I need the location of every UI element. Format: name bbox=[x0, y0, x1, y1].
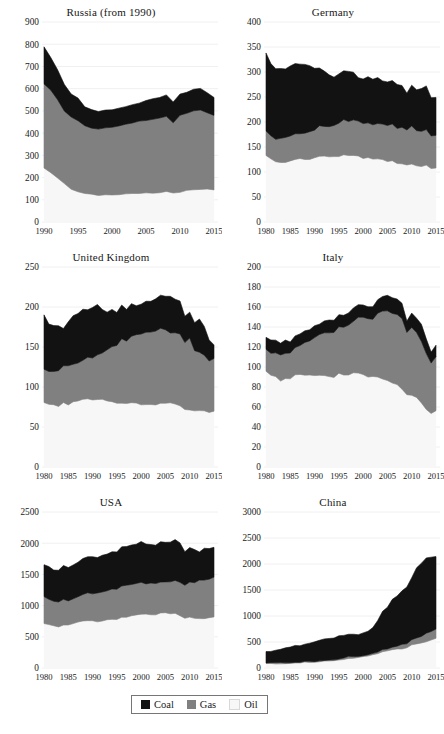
x-axis-tick-label: 1995 bbox=[108, 672, 125, 682]
chart-panel-usa: USA0500100015002000250019801985199019952… bbox=[0, 490, 222, 690]
y-axis-tick-label: 300 bbox=[247, 67, 261, 77]
x-axis-tick-label: 2005 bbox=[379, 672, 396, 682]
x-axis-tick-label: 1980 bbox=[35, 471, 52, 481]
x-axis-tick-label: 2015 bbox=[427, 672, 444, 682]
chart-panel-italy: Italy02040608010012014016018020019801985… bbox=[222, 245, 444, 490]
y-axis-tick-label: 500 bbox=[25, 632, 39, 642]
y-axis-tick-label: 3000 bbox=[242, 507, 261, 517]
legend-item-gas: Gas bbox=[187, 699, 216, 710]
x-axis-tick-label: 1980 bbox=[35, 672, 52, 682]
legend-label-gas: Gas bbox=[200, 699, 216, 710]
legend-item-oil: Oil bbox=[229, 699, 257, 710]
x-axis-tick-label: 1995 bbox=[69, 226, 86, 236]
y-axis-tick-label: 1500 bbox=[20, 570, 39, 580]
plot-area: 0204060801001201401601802001980198519901… bbox=[222, 245, 444, 490]
x-axis-tick-label: 1985 bbox=[282, 226, 299, 236]
plot-area: 0501001502002501980198519901995200020052… bbox=[0, 245, 222, 490]
y-axis-tick-label: 120 bbox=[247, 342, 261, 352]
y-axis-tick-label: 40 bbox=[252, 422, 262, 432]
x-axis-tick-label: 1985 bbox=[282, 471, 299, 481]
x-axis-tick-label: 2010 bbox=[181, 471, 198, 481]
y-axis-tick-label: 2000 bbox=[20, 539, 39, 549]
y-axis-tick-label: 1500 bbox=[242, 585, 261, 595]
y-axis-tick-label: 350 bbox=[247, 42, 261, 52]
y-axis-tick-label: 60 bbox=[252, 402, 262, 412]
x-axis-tick-label: 2010 bbox=[171, 226, 188, 236]
y-axis-tick-label: 200 bbox=[247, 262, 261, 272]
x-axis-tick-label: 1990 bbox=[35, 226, 52, 236]
y-axis-tick-label: 200 bbox=[25, 302, 39, 312]
y-axis-tick-label: 100 bbox=[247, 362, 261, 372]
x-axis-tick-label: 1985 bbox=[60, 672, 77, 682]
y-axis-tick-label: 2500 bbox=[242, 533, 261, 543]
panel-grid: Russia (from 1990)0100200300400500600700… bbox=[0, 0, 444, 690]
plot-area: 0500100015002000250030001980198519901995… bbox=[222, 490, 444, 690]
x-axis-tick-label: 1990 bbox=[84, 672, 101, 682]
plot-area: 0500100015002000250019801985199019952000… bbox=[0, 490, 222, 690]
y-axis-tick-label: 160 bbox=[247, 302, 261, 312]
plot-area: 0100200300400500600700800900199019952000… bbox=[0, 0, 222, 245]
y-axis-tick-label: 100 bbox=[25, 382, 39, 392]
x-axis-tick-label: 2010 bbox=[403, 226, 420, 236]
x-axis-tick-label: 1980 bbox=[257, 471, 274, 481]
y-axis-tick-label: 2500 bbox=[20, 507, 39, 517]
x-axis-tick-label: 2000 bbox=[133, 672, 150, 682]
y-axis-tick-label: 400 bbox=[247, 17, 261, 27]
x-axis-tick-label: 2015 bbox=[427, 471, 444, 481]
x-axis-tick-label: 2005 bbox=[157, 672, 174, 682]
y-axis-tick-label: 180 bbox=[247, 282, 261, 292]
y-axis-tick-label: 1000 bbox=[242, 611, 261, 621]
y-axis-tick-label: 50 bbox=[252, 192, 262, 202]
legend-label-coal: Coal bbox=[154, 699, 174, 710]
x-axis-tick-label: 2010 bbox=[181, 672, 198, 682]
x-axis-tick-label: 2015 bbox=[205, 226, 222, 236]
x-axis-tick-label: 1995 bbox=[108, 471, 125, 481]
x-axis-tick-label: 2000 bbox=[355, 226, 372, 236]
legend-label-oil: Oil bbox=[244, 699, 257, 710]
x-axis-tick-label: 1990 bbox=[84, 471, 101, 481]
x-axis-tick-label: 2015 bbox=[205, 471, 222, 481]
y-axis-tick-label: 300 bbox=[25, 151, 39, 161]
y-axis-tick-label: 250 bbox=[25, 262, 39, 272]
x-axis-tick-label: 1995 bbox=[330, 471, 347, 481]
y-axis-tick-label: 50 bbox=[30, 422, 40, 432]
x-axis-tick-label: 2000 bbox=[103, 226, 120, 236]
y-axis-tick-label: 700 bbox=[25, 62, 39, 72]
y-axis-tick-label: 250 bbox=[247, 92, 261, 102]
x-axis-tick-label: 1985 bbox=[60, 471, 77, 481]
y-axis-tick-label: 800 bbox=[25, 40, 39, 50]
x-axis-tick-label: 2005 bbox=[379, 471, 396, 481]
y-axis-tick-label: 2000 bbox=[242, 559, 261, 569]
y-axis-tick-label: 80 bbox=[252, 382, 262, 392]
x-axis-tick-label: 2015 bbox=[427, 226, 444, 236]
x-axis-tick-label: 2010 bbox=[403, 672, 420, 682]
x-axis-tick-label: 1980 bbox=[257, 672, 274, 682]
y-axis-tick-label: 150 bbox=[247, 142, 261, 152]
y-axis-tick-label: 900 bbox=[25, 17, 39, 27]
legend-swatch-gas bbox=[187, 700, 196, 709]
x-axis-tick-label: 2005 bbox=[137, 226, 154, 236]
legend-swatch-coal bbox=[141, 700, 150, 709]
x-axis-tick-label: 1980 bbox=[257, 226, 274, 236]
x-axis-tick-label: 1985 bbox=[282, 672, 299, 682]
x-axis-tick-label: 2010 bbox=[403, 471, 420, 481]
x-axis-tick-label: 2005 bbox=[379, 226, 396, 236]
x-axis-tick-label: 2005 bbox=[157, 471, 174, 481]
chart-panel-united-kingdom: United Kingdom05010015020025019801985199… bbox=[0, 245, 222, 490]
y-axis-tick-label: 140 bbox=[247, 322, 261, 332]
y-axis-tick-label: 100 bbox=[25, 195, 39, 205]
legend-item-coal: Coal bbox=[141, 699, 174, 710]
x-axis-tick-label: 2015 bbox=[205, 672, 222, 682]
y-axis-tick-label: 500 bbox=[247, 637, 261, 647]
x-axis-tick-label: 1990 bbox=[306, 226, 323, 236]
y-axis-tick-label: 150 bbox=[25, 342, 39, 352]
chart-panel-germany: Germany050100150200250300350400198019851… bbox=[222, 0, 444, 245]
y-axis-tick-label: 20 bbox=[252, 442, 262, 452]
plot-area: 0501001502002503003504001980198519901995… bbox=[222, 0, 444, 245]
x-axis-tick-label: 2000 bbox=[133, 471, 150, 481]
chart-panel-russia-from-1990: Russia (from 1990)0100200300400500600700… bbox=[0, 0, 222, 245]
x-axis-tick-label: 1990 bbox=[306, 672, 323, 682]
y-axis-tick-label: 400 bbox=[25, 129, 39, 139]
chart-legend: Coal Gas Oil bbox=[131, 695, 268, 714]
y-axis-tick-label: 200 bbox=[25, 173, 39, 183]
